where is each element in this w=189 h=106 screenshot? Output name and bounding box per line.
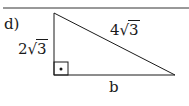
base-label: b	[109, 80, 119, 95]
hypotenuse-label: 4√3	[110, 23, 140, 38]
problem-label: d)	[4, 17, 19, 32]
sqrt-icon: √3	[120, 23, 140, 38]
hypotenuse-radicand: 3	[128, 20, 140, 39]
sqrt-icon: √3	[28, 42, 48, 57]
vertical-leg-radicand: 3	[36, 39, 48, 58]
vertical-leg-coef: 2	[18, 40, 28, 58]
right-angle-dot	[60, 68, 63, 71]
vertical-leg-label: 2√3	[18, 42, 48, 57]
hypotenuse-coef: 4	[110, 21, 120, 39]
